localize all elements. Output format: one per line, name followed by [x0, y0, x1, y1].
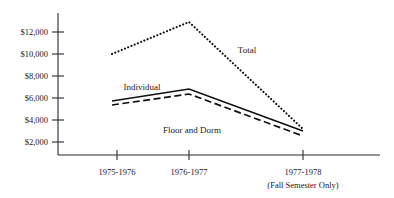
- y-tick-label-6000: $6,000: [25, 93, 48, 103]
- y-tick-label-12000: $12,000: [20, 27, 48, 37]
- y-tick-label-4000: $4,000: [25, 115, 48, 125]
- line-chart: $12,000 $10,000 $8,000 $6,000 $4,000 $2,…: [0, 0, 394, 198]
- x-tick-label-1975-1976: 1975-1976: [99, 167, 136, 177]
- series-annotation-total: Total: [238, 45, 257, 55]
- y-tick-label-10000: $10,000: [20, 49, 48, 59]
- y-tick-label-2000: $2,000: [25, 137, 48, 147]
- x-tick-label-1976-1977: 1976-1977: [171, 167, 208, 177]
- series-line-total: [112, 22, 303, 129]
- x-tick-label-1977-1978: 1977-1978: [285, 167, 322, 177]
- x-tick-sublabel-fall-semester-only: (Fall Semester Only): [267, 180, 338, 190]
- series-annotation-floor-and-dorm: Floor and Dorm: [163, 125, 221, 135]
- series-annotation-individual: Individual: [124, 82, 161, 92]
- y-tick-label-8000: $8,000: [25, 71, 48, 81]
- chart-figure: $12,000 $10,000 $8,000 $6,000 $4,000 $2,…: [0, 0, 394, 198]
